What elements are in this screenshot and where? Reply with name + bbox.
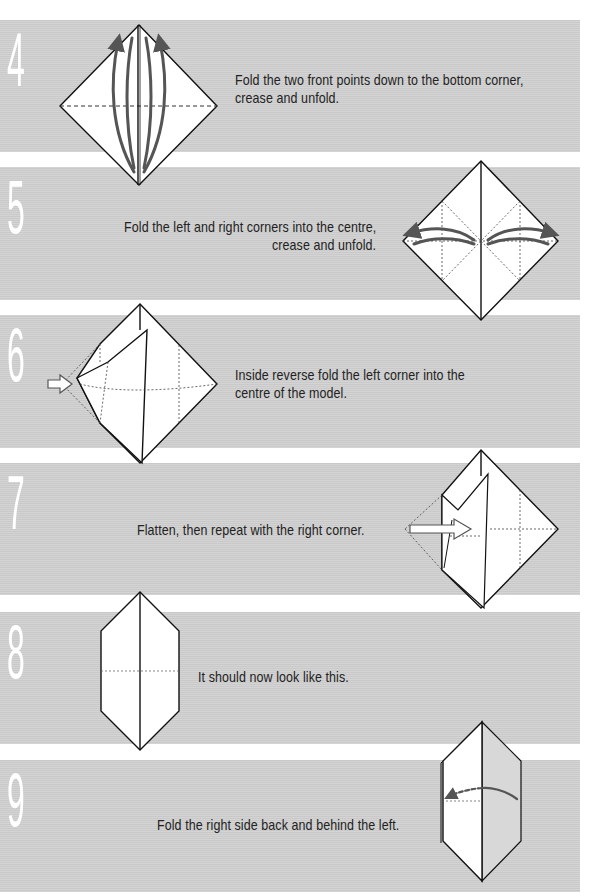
step-9-diagram [441,722,521,881]
step-6-diagram [48,304,217,463]
step-7-diagram [405,450,558,608]
origami-diagrams [0,0,592,896]
step-8-diagram [101,592,179,750]
step-5-diagram [403,161,558,320]
step-4-diagram [60,25,217,185]
